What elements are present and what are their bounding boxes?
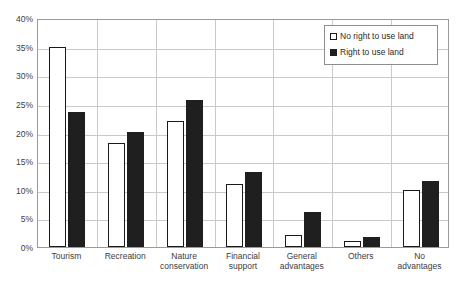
gridline	[38, 106, 448, 107]
category-separator	[97, 20, 98, 247]
chart-title	[0, 0, 456, 6]
bar	[344, 241, 361, 247]
legend-item-label: No right to use land	[340, 32, 414, 41]
bar	[422, 181, 439, 247]
x-axis-category-label: Financial support	[214, 251, 273, 271]
y-axis-tick-label: 40%	[16, 15, 33, 24]
bar	[167, 121, 184, 247]
x-axis-category-label: Recreation	[96, 251, 155, 261]
x-axis-category-label: No advantages	[390, 251, 449, 271]
bar	[127, 132, 144, 247]
x-axis-category-label: Others	[331, 251, 390, 261]
bar	[304, 212, 321, 247]
bar	[108, 143, 125, 247]
y-axis: 0%5%10%15%20%25%30%35%40%	[0, 0, 37, 288]
bar	[49, 47, 66, 247]
bar	[285, 235, 302, 247]
category-separator	[156, 20, 157, 247]
y-axis-tick-label: 5%	[21, 215, 33, 224]
bar	[245, 172, 262, 247]
y-axis-tick-label: 15%	[16, 158, 33, 167]
bar	[186, 100, 203, 247]
gridline	[38, 163, 448, 164]
legend-item: No right to use land	[330, 30, 432, 43]
hollow-square-icon	[330, 33, 337, 40]
gridline	[38, 135, 448, 136]
bar	[68, 112, 85, 247]
filled-square-icon	[330, 49, 337, 56]
y-axis-tick-label: 35%	[16, 43, 33, 52]
y-axis-tick-label: 20%	[16, 129, 33, 138]
y-axis-tick-label: 25%	[16, 101, 33, 110]
bar	[363, 237, 380, 247]
legend-item: Right to use land	[330, 46, 432, 59]
y-axis-tick-label: 0%	[21, 244, 33, 253]
legend-item-label: Right to use land	[340, 48, 404, 57]
gridline	[38, 192, 448, 193]
x-axis-category-label: Nature conservation	[155, 251, 214, 271]
y-axis-tick-label: 30%	[16, 72, 33, 81]
bar	[403, 190, 420, 247]
x-axis: TourismRecreationNature conservationFina…	[37, 251, 449, 287]
gridline	[38, 77, 448, 78]
category-separator	[273, 20, 274, 247]
y-axis-tick-label: 10%	[16, 187, 33, 196]
gridline	[38, 220, 448, 221]
x-axis-category-label: General advantages	[272, 251, 331, 271]
chart-legend: No right to use landRight to use land	[324, 25, 438, 65]
bar	[226, 184, 243, 247]
x-axis-category-label: Tourism	[37, 251, 96, 261]
bar-chart: 0%5%10%15%20%25%30%35%40% TourismRecreat…	[0, 0, 456, 288]
category-separator	[215, 20, 216, 247]
